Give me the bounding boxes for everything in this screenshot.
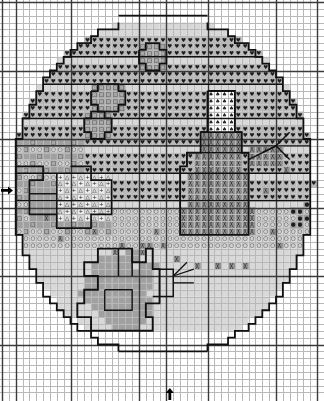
- pattern-grid: [0, 0, 324, 401]
- cross-stitch-chart: Easter Egg Cross Stitch Pattern Chart ▶ …: [0, 0, 324, 401]
